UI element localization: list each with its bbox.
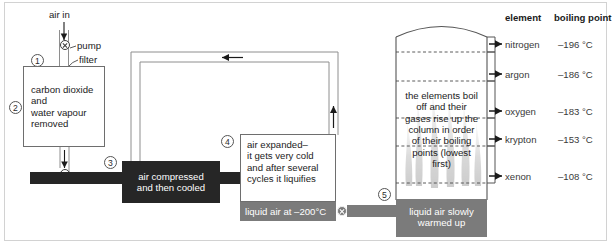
air-in-label: air in <box>49 9 70 20</box>
table-row: –108 °C <box>558 171 593 182</box>
table-row: nitrogen <box>505 39 540 50</box>
compressor-inlet-bar <box>30 172 135 184</box>
table-header-boiling-point: boiling point <box>554 12 612 23</box>
fraction-takeoff-brackets <box>487 37 495 183</box>
scrubber-label: carbon dioxide and water vapour removed <box>31 84 93 129</box>
table-header-element: element <box>505 12 541 23</box>
table-row: –186 °C <box>558 69 593 80</box>
step-5-marker: 5 <box>378 188 391 201</box>
step-3-marker: 3 <box>104 156 117 169</box>
column-note: the elements boil off and their gases ri… <box>396 90 487 169</box>
step-2-marker: 2 <box>9 101 22 114</box>
diagram-canvas: air in pump filter 1 2 3 4 5 carbon diox… <box>0 0 612 245</box>
step-4-marker: 4 <box>221 135 234 148</box>
filter-label: filter <box>79 54 97 65</box>
table-row: –196 °C <box>558 39 593 50</box>
pump-valve-icon[interactable] <box>60 40 70 50</box>
expander-label: air expanded– it gets very cold and afte… <box>247 139 318 184</box>
table-row: –153 °C <box>558 134 593 145</box>
compressor-label: air compressed and then cooled <box>122 171 220 194</box>
table-row: xenon <box>505 171 531 182</box>
liquid-air-transfer-pipe <box>347 205 396 217</box>
liquid-air-label: liquid air at –200°C <box>245 206 326 217</box>
reboiler-label: liquid air slowly warmed up <box>396 206 487 229</box>
table-row: oxygen <box>505 106 536 117</box>
throttle-valve-icon[interactable] <box>337 206 347 216</box>
table-row: –183 °C <box>558 106 593 117</box>
table-row: krypton <box>505 134 536 145</box>
table-row: argon <box>505 69 530 80</box>
pump-label: pump <box>77 40 101 51</box>
